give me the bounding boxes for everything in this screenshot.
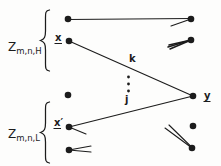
brace-bottom-group [41,102,50,163]
node-dot-y [190,93,197,100]
node-dot-bottom-left [66,147,73,154]
node-dot-right-second [188,37,195,44]
label-x-prime: x′ [54,117,63,128]
node-dot-bottom-right-upper [190,123,197,130]
group-label-high-subscript: m,n,H [16,46,41,56]
node-dot-top-right [188,16,195,23]
stub-bottomleft-node-2 [69,150,91,152]
stub-bottomright-node-2 [169,125,191,147]
group-label-low-base: Z [8,127,16,141]
group-label-high-base: Z [8,40,16,54]
label-edge-j: j [124,94,128,105]
group-label-low-subscript: m,n,L [16,133,40,143]
label-y: y [204,90,211,101]
label-edge-k: k [129,53,136,64]
edge-xprime-to-y [69,96,193,127]
node-dot-x-prime [66,124,73,131]
node-dot-top-left [65,16,72,23]
label-x: x [55,32,62,43]
group-label-high: Zm,n,H [8,40,42,56]
vertical-ellipsis-icon [127,76,130,93]
node-dot-middle-left [65,92,72,99]
bipartite-graph-figure: Zm,n,H Zm,n,L x x′ y k j [0,0,221,166]
stub-bottomleft-node-1 [69,146,91,150]
node-dot-x [66,38,73,45]
group-label-low: Zm,n,L [8,127,40,143]
edge-x-to-y [69,41,193,96]
edge-topleft-to-topright [68,19,191,20]
brace-top-group [41,10,50,71]
node-dot-bottom-right-lower [189,145,196,152]
stub-bottomright-node-1 [165,128,192,148]
diagram-canvas: Zm,n,H Zm,n,L x x′ y k j [0,0,221,166]
